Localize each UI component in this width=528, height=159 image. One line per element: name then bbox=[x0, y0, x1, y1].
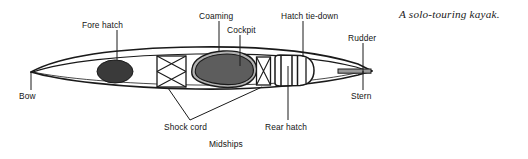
label-cockpit: Cockpit bbox=[227, 25, 256, 35]
forward-shock-cord-shape[interactable] bbox=[157, 56, 186, 87]
kayak-figure: Fore hatch Coaming Cockpit Hatch tie-dow… bbox=[0, 0, 528, 159]
leader-shock-cord-rear bbox=[190, 87, 262, 120]
cockpit-shape[interactable] bbox=[195, 54, 253, 85]
label-stern: Stern bbox=[351, 91, 372, 101]
label-bow: Bow bbox=[19, 91, 36, 101]
label-rudder: Rudder bbox=[348, 33, 376, 43]
label-hatch-tie-down: Hatch tie-down bbox=[281, 11, 338, 21]
kayak-diagram-svg bbox=[0, 0, 528, 159]
rear-shock-cord-shape[interactable] bbox=[257, 57, 271, 85]
label-midships: Midships bbox=[209, 139, 243, 149]
label-shock-cord: Shock cord bbox=[164, 122, 207, 132]
label-coaming: Coaming bbox=[199, 11, 233, 21]
fore-hatch-shape[interactable] bbox=[97, 60, 133, 83]
leader-shock-cord-forward bbox=[168, 88, 190, 120]
label-rear-hatch: Rear hatch bbox=[265, 122, 307, 132]
label-fore-hatch: Fore hatch bbox=[82, 20, 123, 30]
figure-caption: A solo-touring kayak. bbox=[399, 8, 500, 20]
rudder-shape[interactable] bbox=[338, 69, 371, 73]
